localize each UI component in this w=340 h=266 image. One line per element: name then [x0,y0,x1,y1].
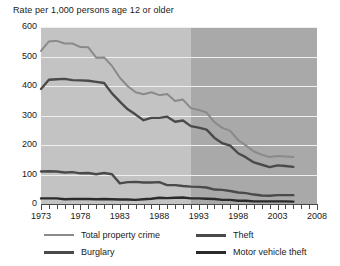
x-axis-minor-tick [230,205,231,209]
series-line-theft [41,79,293,167]
legend-swatch-icon [196,251,226,254]
x-axis-minor-tick [262,205,263,209]
x-axis-major-tick [80,205,81,210]
chart-legend: Total property crimeTheftBurglaryMotor v… [0,230,340,264]
legend-label: Theft [233,230,254,240]
x-axis-tick-label: 1988 [149,211,169,221]
x-axis-minor-tick [65,205,66,209]
property-crime-rate-chart: Rate per 1,000 persons age 12 or older 6… [0,0,340,266]
x-axis-major-tick [41,205,42,210]
x-axis-minor-tick [73,205,74,209]
x-axis-tick-label: 2008 [307,211,327,221]
y-axis-tick-label: 400 [3,80,37,90]
x-axis-minor-tick [207,205,208,209]
x-axis-minor-tick [49,205,50,209]
x-axis-minor-tick [183,205,184,209]
legend-item: Theft [196,230,254,240]
x-axis-tick-label: 1983 [110,211,130,221]
y-axis-tick-label: 100 [3,169,37,179]
y-axis-tick-label: 200 [3,139,37,149]
x-axis-minor-tick [57,205,58,209]
x-axis-minor-tick [285,205,286,209]
x-axis-ticks [41,205,318,210]
legend-item: Total property crime [44,230,160,240]
x-axis-minor-tick [191,205,192,209]
x-axis-minor-tick [293,205,294,209]
x-axis-major-tick [159,205,160,210]
y-axis-tick-label: 600 [3,21,37,31]
x-axis-minor-tick [96,205,97,209]
y-axis-tick-label: 0 [3,198,37,208]
series-lines [41,27,317,204]
series-line-total-property-crime [41,41,293,157]
series-line-burglary [41,171,293,195]
y-axis-labels: 6005004003002001000 [0,0,37,266]
x-axis-minor-tick [128,205,129,209]
legend-swatch-icon [44,234,74,236]
x-axis-major-tick [238,205,239,210]
x-axis-minor-tick [222,205,223,209]
x-axis-tick-label: 1978 [70,211,90,221]
x-axis-minor-tick [144,205,145,209]
x-axis-major-tick [199,205,200,210]
x-axis-minor-tick [301,205,302,209]
plot-area [41,27,317,204]
legend-label: Burglary [81,247,115,257]
legend-swatch-icon [196,234,226,237]
x-axis-minor-tick [309,205,310,209]
x-axis-tick-label: 2003 [268,211,288,221]
x-axis-tick-label: 1973 [31,211,51,221]
x-axis-minor-tick [104,205,105,209]
x-axis-major-tick [120,205,121,210]
x-axis-minor-tick [214,205,215,209]
x-axis-major-tick [278,205,279,210]
legend-item: Burglary [44,247,115,257]
x-axis-minor-tick [112,205,113,209]
x-axis-labels: 19731978198319881993199820032008 [0,211,340,225]
x-axis-major-tick [317,205,318,210]
x-axis-minor-tick [88,205,89,209]
legend-swatch-icon [44,251,74,254]
legend-item: Motor vehicle theft [196,247,307,257]
chart-axis-title: Rate per 1,000 persons age 12 or older [13,5,174,15]
x-axis-tick-label: 1993 [189,211,209,221]
x-axis-minor-tick [175,205,176,209]
x-axis-minor-tick [136,205,137,209]
x-axis-minor-tick [151,205,152,209]
legend-label: Total property crime [81,230,160,240]
x-axis-minor-tick [270,205,271,209]
x-axis-minor-tick [167,205,168,209]
legend-label: Motor vehicle theft [233,247,307,257]
x-axis-minor-tick [246,205,247,209]
y-axis-tick-label: 500 [3,51,37,61]
series-line-motor-vehicle-theft [41,198,293,202]
x-axis-tick-label: 1998 [228,211,248,221]
x-axis-minor-tick [254,205,255,209]
y-axis-tick-label: 300 [3,110,37,120]
